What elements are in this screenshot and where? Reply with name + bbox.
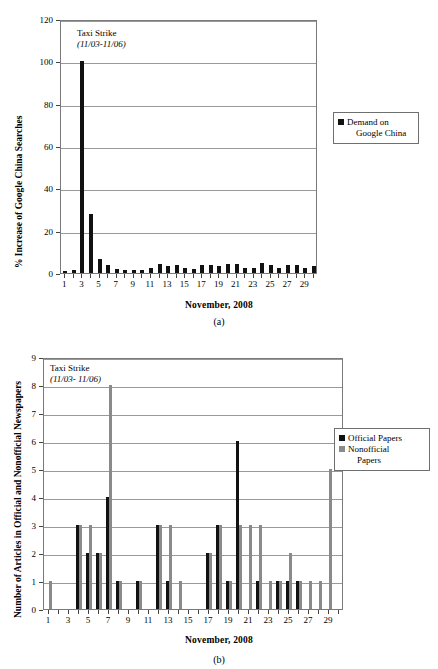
bar — [169, 525, 172, 609]
bar — [259, 525, 262, 609]
chart-x-tick-mark — [270, 274, 271, 278]
bar — [226, 264, 230, 273]
chart-a-x-axis-title: November, 2008 — [0, 300, 438, 310]
bar — [140, 270, 144, 273]
bar — [179, 581, 182, 609]
chart-x-tick-mark — [248, 610, 249, 614]
bar — [260, 263, 264, 273]
chart-x-tick-mark — [288, 610, 289, 614]
bar — [123, 270, 127, 273]
chart-x-tick-mark — [81, 274, 82, 278]
chart-x-tick-mark — [208, 610, 209, 614]
chart-b-annotation: Taxi Strike (11/03- 11/06) — [50, 363, 101, 385]
chart-x-tick-mark — [141, 274, 142, 278]
bar — [296, 581, 299, 609]
chart-y-tick-label: 20 — [0, 228, 53, 237]
gridline — [44, 415, 342, 416]
legend-item-label: Demand onGoogle China — [347, 117, 406, 139]
chart-y-tick-label: 80 — [0, 101, 53, 110]
chart-x-tick-mark — [128, 610, 129, 614]
bar — [86, 553, 89, 609]
chart-x-tick-mark — [328, 610, 329, 614]
chart-y-tick-mark — [39, 498, 43, 499]
chart-x-tick-mark — [298, 610, 299, 614]
chart-x-tick-mark — [138, 610, 139, 614]
chart-x-tick-mark — [107, 274, 108, 278]
legend-item-label-line2: Google China — [347, 128, 406, 139]
bar — [236, 441, 239, 609]
chart-x-tick-mark — [158, 610, 159, 614]
chart-x-tick-mark — [318, 610, 319, 614]
bar — [209, 265, 213, 273]
gridline — [61, 106, 316, 107]
chart-x-tick-label: 3 — [72, 280, 90, 289]
bar — [329, 469, 332, 609]
chart-y-tick-mark — [56, 189, 60, 190]
chart-x-tick-label: 11 — [141, 280, 159, 289]
bar — [286, 265, 290, 273]
chart-y-tick-label: 7 — [0, 410, 36, 419]
gridline — [44, 359, 342, 360]
gridline — [61, 21, 316, 22]
bar — [286, 581, 289, 609]
chart-x-tick-mark — [193, 274, 194, 278]
bar — [136, 581, 139, 609]
chart-x-tick-mark — [227, 274, 228, 278]
gridline — [44, 499, 342, 500]
chart-b-x-axis-title: November, 2008 — [0, 635, 438, 645]
chart-x-tick-mark — [304, 274, 305, 278]
chart-x-tick-label: 17 — [199, 616, 217, 625]
chart-y-tick-label: 8 — [0, 382, 36, 391]
bar — [89, 525, 92, 609]
bar — [79, 525, 82, 609]
bar — [109, 385, 112, 609]
chart-y-tick-mark — [39, 554, 43, 555]
legend-item[interactable]: Official Papers — [339, 433, 424, 444]
chart-x-tick-mark — [98, 610, 99, 614]
chart-x-tick-mark — [201, 274, 202, 278]
chart-y-tick-label: 5 — [0, 466, 36, 475]
chart-x-tick-mark — [58, 610, 59, 614]
chart-x-tick-label: 15 — [175, 280, 193, 289]
bar — [96, 553, 99, 609]
chart-x-tick-label: 27 — [278, 280, 296, 289]
bar — [192, 269, 196, 273]
chart-x-tick-label: 13 — [158, 280, 176, 289]
bar — [175, 265, 179, 273]
gridline — [61, 63, 316, 64]
legend-item[interactable]: Demand onGoogle China — [338, 117, 413, 139]
chart-x-tick-mark — [178, 610, 179, 614]
chart-y-tick-mark — [56, 20, 60, 21]
chart-x-tick-mark — [261, 274, 262, 278]
chart-x-tick-mark — [133, 274, 134, 278]
chart-x-tick-mark — [188, 610, 189, 614]
gridline — [44, 443, 342, 444]
chart-y-tick-label: 1 — [0, 578, 36, 587]
bar — [159, 525, 162, 609]
figure-a-caption: (a) — [0, 316, 438, 327]
chart-x-tick-mark — [338, 610, 339, 614]
bar — [98, 259, 102, 273]
chart-x-tick-label: 25 — [261, 280, 279, 289]
chart-y-tick-mark — [39, 470, 43, 471]
chart-y-tick-mark — [56, 274, 60, 275]
bar — [319, 581, 322, 609]
chart-x-tick-label: 7 — [107, 280, 125, 289]
bar — [217, 266, 221, 273]
bar — [277, 268, 281, 274]
chart-x-tick-mark — [124, 274, 125, 278]
chart-x-tick-mark — [108, 610, 109, 614]
chart-y-tick-mark — [56, 62, 60, 63]
chart-y-tick-label: 4 — [0, 494, 36, 503]
chart-x-tick-mark — [244, 274, 245, 278]
chart-x-tick-mark — [176, 274, 177, 278]
chart-x-tick-mark — [253, 274, 254, 278]
chart-x-tick-mark — [48, 610, 49, 614]
chart-y-tick-label: 60 — [0, 143, 53, 152]
chart-b-annotation-line2: (11/03- 11/06) — [50, 374, 101, 385]
chart-x-tick-mark — [99, 274, 100, 278]
bar — [183, 268, 187, 273]
chart-b-legend: Official PapersNonofficialPapers — [334, 428, 430, 471]
chart-x-tick-mark — [64, 274, 65, 278]
legend-item[interactable]: NonofficialPapers — [339, 444, 424, 466]
